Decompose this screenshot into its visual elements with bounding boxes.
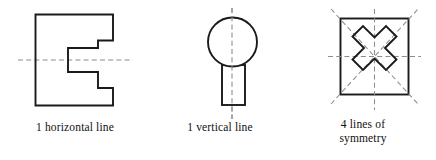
caption-block-e: 1 horizontal line (0, 120, 150, 134)
caption-line: 4 lines of (290, 117, 436, 131)
square-x-drawing (290, 0, 436, 120)
figure-block-e: 1 horizontal line (0, 0, 150, 160)
figure-balloon: 1 vertical line (150, 0, 290, 160)
balloon-drawing (150, 0, 290, 120)
figure-square-x: 4 lines of symmetry (290, 0, 436, 160)
block-e-drawing (0, 0, 150, 120)
caption-square-x: 4 lines of symmetry (290, 117, 436, 145)
caption-line: 1 vertical line (150, 120, 290, 134)
rectangle-stem (222, 65, 245, 105)
caption-line: symmetry (290, 131, 436, 145)
caption-line: 1 horizontal line (0, 120, 150, 134)
caption-balloon: 1 vertical line (150, 120, 290, 134)
figure-sheet: 1 horizontal line 1 vertical line (0, 0, 436, 160)
